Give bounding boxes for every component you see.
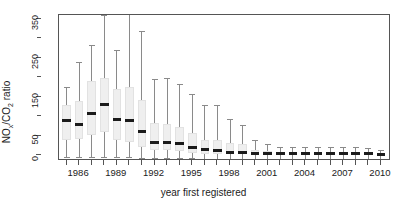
upper-whisker bbox=[267, 144, 268, 151]
x-tick-2008 bbox=[355, 160, 356, 165]
x-tick-2003 bbox=[292, 160, 293, 165]
upper-whisker bbox=[104, 15, 105, 78]
upper-whisker-cap bbox=[214, 105, 220, 106]
upper-whisker-cap bbox=[227, 119, 233, 120]
y-axis-title: NOx/CO2 ratio bbox=[2, 81, 16, 143]
upper-whisker-cap bbox=[114, 50, 120, 51]
lower-whisker bbox=[104, 132, 105, 157]
boxplot-2002 bbox=[276, 15, 285, 159]
x-tick-2007 bbox=[342, 160, 343, 165]
upper-whisker bbox=[192, 94, 193, 133]
upper-whisker-cap bbox=[315, 147, 321, 148]
boxplot-1997 bbox=[213, 15, 222, 159]
upper-whisker-cap bbox=[126, 14, 132, 15]
upper-whisker bbox=[230, 119, 231, 143]
x-tick-1986 bbox=[78, 160, 79, 165]
x-tick-1999 bbox=[242, 160, 243, 165]
x-tick-label-1989: 1989 bbox=[105, 168, 126, 178]
upper-whisker-cap bbox=[89, 45, 95, 46]
box-iqr bbox=[75, 101, 84, 139]
x-axis: 198619891992199519982001200420072010 yea… bbox=[0, 160, 407, 224]
boxplot-2005 bbox=[314, 15, 323, 159]
upper-whisker-cap bbox=[177, 84, 183, 85]
lower-whisker bbox=[66, 140, 67, 157]
median bbox=[263, 152, 272, 155]
lower-whisker bbox=[129, 142, 130, 158]
median bbox=[364, 152, 373, 155]
lower-whisker-cap bbox=[89, 157, 95, 158]
median bbox=[251, 152, 260, 155]
upper-whisker bbox=[91, 45, 92, 81]
x-tick-1998 bbox=[229, 160, 230, 165]
y-axis-title-post: ratio bbox=[1, 81, 12, 103]
x-tick-2010 bbox=[380, 160, 381, 165]
x-tick-1991 bbox=[141, 160, 142, 165]
x-tick-1985 bbox=[66, 160, 67, 165]
x-tick-1997 bbox=[216, 160, 217, 165]
median bbox=[276, 152, 285, 155]
upper-whisker-cap bbox=[252, 140, 258, 141]
boxplot-2006 bbox=[326, 15, 335, 159]
upper-whisker bbox=[242, 125, 243, 144]
x-tick-2000 bbox=[254, 160, 255, 165]
x-tick-label-1986: 1986 bbox=[68, 168, 89, 178]
boxplot-1994 bbox=[175, 15, 184, 159]
median bbox=[301, 152, 310, 155]
y-tick-label-50: 50 bbox=[31, 134, 40, 144]
y-tick-label-150: 150 bbox=[31, 93, 40, 108]
upper-whisker-cap bbox=[240, 125, 246, 126]
x-tick-label-1998: 1998 bbox=[218, 168, 239, 178]
box-iqr bbox=[113, 89, 122, 140]
boxplot-1998 bbox=[226, 15, 235, 159]
x-tick-label-2004: 2004 bbox=[294, 168, 315, 178]
x-tick-2005 bbox=[317, 160, 318, 165]
median bbox=[201, 148, 210, 151]
x-tick-2006 bbox=[330, 160, 331, 165]
boxplot-1985 bbox=[62, 15, 71, 159]
upper-whisker-cap bbox=[265, 144, 271, 145]
median bbox=[377, 153, 386, 156]
lower-whisker bbox=[167, 150, 168, 158]
upper-whisker-cap bbox=[76, 62, 82, 63]
box-iqr bbox=[87, 81, 96, 135]
boxplot-1986 bbox=[75, 15, 84, 159]
box-iqr bbox=[175, 127, 184, 151]
x-tick-label-2001: 2001 bbox=[256, 168, 277, 178]
box-iqr bbox=[138, 100, 147, 147]
boxplot-1987 bbox=[87, 15, 96, 159]
upper-whisker bbox=[129, 14, 130, 87]
boxplot-1995 bbox=[188, 15, 197, 159]
boxplot-1990 bbox=[125, 15, 134, 159]
lower-whisker bbox=[91, 135, 92, 157]
x-axis-title: year first registered bbox=[0, 187, 407, 198]
box-iqr bbox=[201, 140, 210, 154]
box-iqr bbox=[188, 133, 197, 153]
y-tick-label-250: 250 bbox=[31, 54, 40, 69]
median bbox=[289, 152, 298, 155]
x-tick-label-2007: 2007 bbox=[332, 168, 353, 178]
box-iqr bbox=[163, 124, 172, 150]
x-tick-1993 bbox=[166, 160, 167, 165]
plot-area bbox=[58, 14, 390, 160]
median bbox=[238, 151, 247, 154]
median bbox=[339, 152, 348, 155]
median bbox=[175, 142, 184, 145]
lower-whisker bbox=[141, 147, 142, 158]
y-axis-title-pre: NO bbox=[1, 128, 12, 143]
median bbox=[125, 119, 134, 122]
y-axis-title-sub-x: x bbox=[7, 125, 14, 129]
y-tick-100 bbox=[37, 115, 41, 116]
median bbox=[113, 118, 122, 121]
lower-whisker bbox=[179, 151, 180, 158]
upper-whisker-cap bbox=[340, 147, 346, 148]
boxplot-2003 bbox=[289, 15, 298, 159]
upper-whisker-cap bbox=[328, 147, 334, 148]
lower-whisker-cap bbox=[76, 157, 82, 158]
y-tick-200 bbox=[37, 76, 41, 77]
median bbox=[75, 123, 84, 126]
lower-whisker-cap bbox=[139, 158, 145, 159]
boxplot-2000 bbox=[251, 15, 260, 159]
lower-whisker-cap bbox=[64, 157, 70, 158]
boxplot-2010 bbox=[377, 15, 386, 159]
median bbox=[150, 141, 159, 144]
